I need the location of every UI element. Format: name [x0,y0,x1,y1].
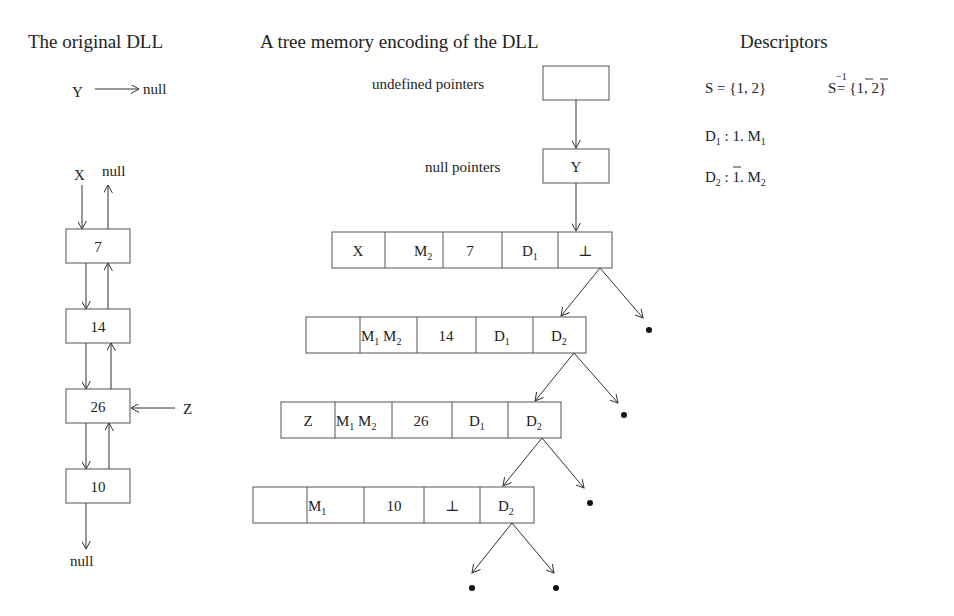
svg-text:10: 10 [91,479,106,495]
svg-text:M2: M2 [414,243,432,262]
svg-text:7: 7 [466,243,474,259]
dll-bottom-null: null [70,553,93,569]
svg-text:M1: M1 [308,498,326,517]
diagram-canvas: The original DLL A tree memory encoding … [0,0,954,616]
dll-top-null: null [102,163,125,179]
svg-text:D2: D2 [498,498,514,517]
dll-y-label: Y [72,84,83,100]
tree-row-3: Z M1 M2 26 D1 D2 [281,402,561,438]
descriptor-d2: D2 : 1. M2 [705,167,766,188]
svg-text:26: 26 [414,413,430,429]
null-leaf-dot [587,500,593,506]
null-pointers-label: null pointers [425,159,501,175]
null-leaf-dot [553,585,559,591]
null-leaf-dot [621,412,627,418]
undefined-pointers-label: undefined pointers [372,76,484,92]
svg-text:D2: D2 [551,328,567,347]
descriptor-s-inverse: S −1 = {1, 2} [828,71,888,96]
dll-node-14: 14 [66,309,130,343]
null-pointers-box: Y [543,149,609,183]
svg-text:D1 : 1. M1: D1 : 1. M1 [705,128,766,147]
svg-text:D1: D1 [522,243,538,262]
null-leaf-dot [646,327,652,333]
descriptor-s: S = {1, 2} [705,80,766,96]
svg-text:M1 M2: M1 M2 [361,328,401,347]
svg-text:= {1, 2}: = {1, 2} [837,80,886,96]
heading-descriptors: Descriptors [740,31,828,52]
svg-text:D2: D2 [526,413,542,432]
tree-row-4: M1 10 ⊥ D2 [253,487,534,523]
svg-text:7: 7 [94,239,102,255]
svg-text:S: S [828,80,836,96]
svg-text:10: 10 [387,498,402,514]
dll-node-10: 10 [66,469,130,503]
descriptor-d1: D1 : 1. M1 [705,128,766,147]
svg-text:14: 14 [439,328,455,344]
undefined-pointers-box [543,66,609,100]
svg-text:D1: D1 [469,413,485,432]
svg-text:Z: Z [303,413,312,429]
svg-text:M1 M2: M1 M2 [336,413,376,432]
heading-original-dll: The original DLL [28,31,163,52]
svg-text:D1: D1 [494,328,510,347]
svg-text:D2 : 1. M2: D2 : 1. M2 [705,169,766,188]
dll-x-label: X [74,167,85,183]
svg-text:S = {1, 2}: S = {1, 2} [705,80,766,96]
dll-z-label: Z [183,401,192,417]
svg-text:⊥: ⊥ [578,243,592,259]
svg-text:Y: Y [571,159,582,175]
svg-text:⊥: ⊥ [445,498,459,514]
null-leaf-dot [469,585,475,591]
dll-node-26: 26 [66,389,130,423]
svg-text:14: 14 [91,319,107,335]
dll-node-7: 7 [66,229,130,263]
heading-tree-encoding: A tree memory encoding of the DLL [260,31,539,52]
dll-y-null: null [143,81,166,97]
tree-row-2: M1 M2 14 D1 D2 [306,317,586,353]
svg-text:X: X [353,243,364,259]
svg-text:26: 26 [91,399,107,415]
tree-row-1: X M2 7 D1 ⊥ [332,232,612,268]
